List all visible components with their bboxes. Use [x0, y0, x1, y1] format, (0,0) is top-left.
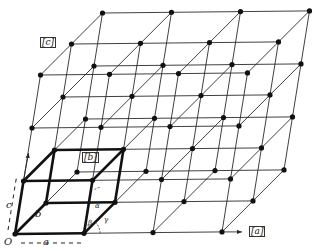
edge-label-c: c	[6, 200, 12, 210]
lattice-line-c	[146, 12, 172, 171]
lattice-line-a	[32, 126, 239, 128]
lattice-point	[100, 10, 105, 15]
lattice-line-a	[94, 64, 301, 66]
lattice-point	[74, 169, 79, 174]
lattice-point	[143, 169, 148, 174]
unit-cell-edge	[55, 149, 124, 150]
lattice-point	[298, 61, 303, 66]
angle-label-beta: β	[88, 220, 92, 227]
lattice-point	[159, 177, 164, 182]
lattice-line-c	[184, 43, 210, 202]
lattice-point	[98, 125, 103, 130]
alpha-arc	[94, 187, 100, 190]
unit-cell-edge	[24, 180, 93, 181]
axis-label-b: [b]	[82, 152, 99, 163]
lattice-point	[281, 167, 286, 172]
lattice-point	[83, 116, 88, 121]
crystal-lattice-diagram: [a] [b] [c] O a b c α β γ	[0, 0, 314, 251]
edge-label-a: a	[43, 237, 49, 247]
lattice-line-c	[253, 42, 279, 201]
lattice-point	[212, 168, 217, 173]
lattice-point	[267, 92, 272, 97]
lattice-point	[152, 116, 157, 121]
axis-label-c: [c]	[40, 37, 56, 48]
a-axis-arrow-head-icon	[237, 230, 242, 234]
gamma-arc	[95, 222, 100, 233]
lattice-point	[90, 178, 95, 183]
lattice-point	[176, 71, 181, 76]
lattice-point	[228, 176, 233, 181]
unit-cell-edge	[46, 202, 115, 203]
lattice-line-a	[86, 117, 293, 119]
lattice-line-a	[41, 73, 248, 75]
lattice-point	[250, 198, 255, 203]
lattice-point	[52, 147, 57, 152]
lattice-point	[290, 114, 295, 119]
lattice-line-a	[63, 95, 270, 97]
lattice-point	[169, 10, 174, 15]
lattice-line-c	[284, 11, 310, 170]
lattice-line-c	[215, 12, 241, 171]
lattice-point	[221, 115, 226, 120]
lattice-line-c	[77, 13, 103, 172]
lattice-line-a	[72, 42, 279, 44]
lattice-point	[219, 229, 224, 234]
lattice-point	[29, 125, 34, 130]
lattice-point	[21, 178, 26, 183]
lattice-point	[150, 230, 155, 235]
unit-cell-edge	[15, 233, 84, 234]
lattice-line-c	[222, 73, 248, 232]
axis-label-a: [a]	[249, 226, 265, 237]
origin-label: O	[4, 237, 12, 247]
lattice-point	[207, 40, 212, 45]
lattice-point	[307, 8, 312, 13]
lattice-point	[129, 94, 134, 99]
angle-label-alpha: α	[95, 203, 100, 210]
lattice-point	[138, 41, 143, 46]
lattice-line-a	[103, 11, 310, 13]
lattice-point	[121, 147, 126, 152]
lattice-point	[236, 123, 241, 128]
lattice-point	[43, 200, 48, 205]
lattice-point	[12, 231, 17, 236]
lattice-point	[107, 72, 112, 77]
lattice-point	[167, 124, 172, 129]
lattice-line-a	[77, 170, 284, 172]
lattice-point	[38, 72, 43, 77]
lattice-point	[198, 93, 203, 98]
lattice-point	[81, 231, 86, 236]
lattice-point	[69, 41, 74, 46]
lattice-point	[245, 70, 250, 75]
lattice-point	[91, 63, 96, 68]
lattice-point	[276, 39, 281, 44]
lattice-point	[190, 146, 195, 151]
lattice-point	[60, 94, 65, 99]
edge-label-b: b	[35, 209, 41, 219]
lattice-point	[160, 63, 165, 68]
lattice-point	[112, 200, 117, 205]
angle-label-gamma: γ	[104, 217, 108, 224]
lattice-line-c	[153, 74, 179, 233]
lattice-point	[238, 9, 243, 14]
lattice-point	[259, 145, 264, 150]
lattice-point	[181, 199, 186, 204]
lattice-point	[229, 62, 234, 67]
